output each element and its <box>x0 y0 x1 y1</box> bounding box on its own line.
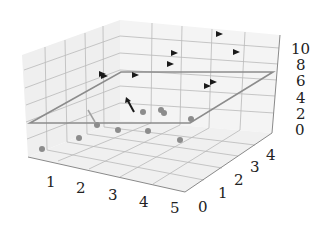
svg-text:5: 5 <box>170 199 180 217</box>
svg-text:3: 3 <box>108 186 118 204</box>
3d-scatter-chart: 10 8 6 4 2 0 1 2 3 4 5 0 1 2 3 4 <box>0 0 324 228</box>
svg-text:2: 2 <box>76 179 86 197</box>
svg-text:6: 6 <box>296 72 306 90</box>
svg-text:0: 0 <box>295 121 305 139</box>
svg-text:4: 4 <box>266 146 276 164</box>
svg-text:3: 3 <box>250 158 260 176</box>
svg-text:2: 2 <box>234 171 244 189</box>
z-axis-labels: 10 8 6 4 2 0 <box>291 40 310 139</box>
svg-text:0: 0 <box>198 198 208 216</box>
svg-text:1: 1 <box>46 173 56 191</box>
svg-text:1: 1 <box>218 184 228 202</box>
svg-text:4: 4 <box>139 193 149 211</box>
